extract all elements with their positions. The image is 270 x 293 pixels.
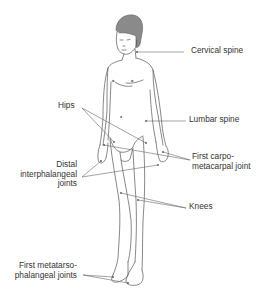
knees-leader [121,193,186,208]
first-mtp-leader [83,275,128,283]
right-foot [126,262,143,285]
human-figure-diagram [0,0,270,293]
label-hips: Hips [58,101,75,111]
label-distal-interphalangeal-joints: Distal interphalangeal joints [20,160,77,189]
left-arm [100,68,111,145]
label-first-carpometacarpal-joint: First carpo- metacarpal joint [192,152,251,171]
right-leg [133,137,145,270]
hips-leader [82,108,146,143]
distal-ip-leader [82,161,158,177]
label-first-metatarsophalangeal-joints: First metatarso- phalangeal joints [15,261,77,280]
left-hand [98,143,108,163]
first-cmc-leader [104,145,190,160]
hair [116,15,143,47]
right-arm [150,70,166,146]
label-cervical-spine: Cervical spine [191,46,243,56]
label-lumbar-spine: Lumbar spine [189,115,239,125]
label-knees: Knees [189,202,213,212]
left-leg [110,140,131,275]
